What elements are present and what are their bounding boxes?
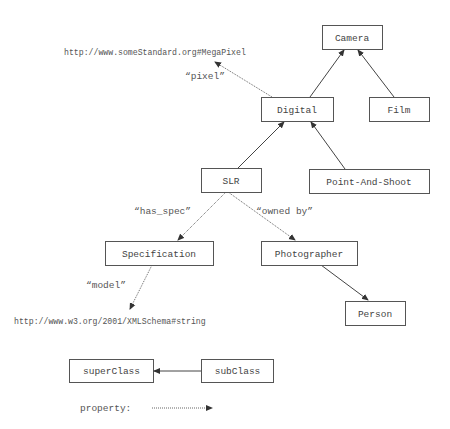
subclass-arrow-film-to-camera [358,50,394,97]
node-person: Person [346,302,406,326]
camera-ontology-diagram: CameraDigitalFilmSLRPoint-And-ShootSpeci… [0,0,450,429]
subclass-arrow-photographer-to-person [321,265,368,300]
node-label: Digital [277,105,317,116]
edge-label: “pixel” [185,71,225,82]
legend-property-label: property: [80,403,131,414]
subclass-arrow-point_and_shoot-to-digital [311,122,345,169]
edge-label: “owned by” [256,206,313,217]
node-label: SLR [222,176,239,187]
subclass-arrow-slr-to-digital [238,122,284,168]
node-specification: Specification [106,242,214,266]
node-label: Camera [335,33,370,44]
legend: superClass subClass property: [70,360,274,415]
node-label: Specification [122,249,196,260]
edge-label: “has_spec” [134,206,191,217]
legend-superclass-label: superClass [83,366,140,377]
property-arrow-specification-to-xsd_string_uri [130,265,152,309]
legend-subclass-label: subClass [215,366,261,377]
node-label: Person [358,309,392,320]
node-film: Film [370,98,430,122]
literal-xsd-string-uri: http://www.w3.org/2001/XMLSchema#string [14,317,206,326]
node-label: Photographer [275,249,343,260]
subclass-arrow-digital-to-camera [310,50,344,97]
node-label: Film [388,105,411,116]
edge-label: “model” [86,280,126,291]
nodes: CameraDigitalFilmSLRPoint-And-ShootSpeci… [106,26,430,326]
node-camera: Camera [323,26,383,50]
node-photographer: Photographer [262,242,358,266]
node-label: Point-And-Shoot [326,177,412,188]
node-slr: SLR [202,169,262,193]
node-digital: Digital [262,98,334,122]
literal-megapixel-uri: http://www.someStandard.org#MegaPixel [64,48,246,57]
node-point-and-shoot: Point-And-Shoot [310,170,430,194]
